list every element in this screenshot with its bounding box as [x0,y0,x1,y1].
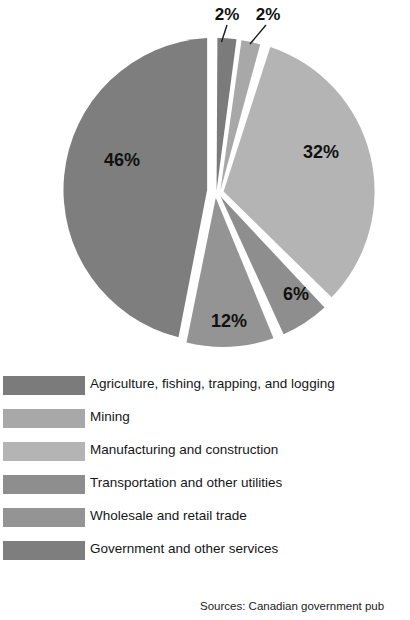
legend-swatch-icon [3,508,85,527]
chart-legend: Agriculture, fishing, trapping, and logg… [0,372,410,570]
pie-value-label-agriculture: 2% [215,5,240,24]
legend-swatch-icon [3,442,85,461]
pie-value-label-government: 46% [104,150,140,170]
legend-item-agriculture-fishing-trapping-and-logging[interactable]: Agriculture, fishing, trapping, and logg… [0,372,410,405]
legend-item-manufacturing-and-construction[interactable]: Manufacturing and construction [0,438,410,471]
legend-swatch-icon [3,475,85,494]
legend-item-mining[interactable]: Mining [0,405,410,438]
legend-swatch-icon [3,409,85,428]
pie-value-label-wholesale: 12% [211,311,247,331]
legend-item-label: Transportation and other utilities [90,472,282,494]
legend-item-transportation-and-other-utilities[interactable]: Transportation and other utilities [0,471,410,504]
pie-chart-svg: 2% 2% 32% 6% 12% 46% [0,0,410,365]
pie-value-label-mining: 2% [256,5,281,24]
legend-item-label: Agriculture, fishing, trapping, and logg… [90,373,335,395]
legend-swatch-icon [3,541,85,560]
legend-item-label: Mining [90,406,130,428]
legend-item-government-and-other-services[interactable]: Government and other services [0,537,410,570]
source-note: Sources: Canadian government pub [200,598,410,614]
legend-item-wholesale-and-retail-trade[interactable]: Wholesale and retail trade [0,504,410,537]
pie-slice-government-and-other-services[interactable] [63,38,207,337]
pie-chart-figure: 2% 2% 32% 6% 12% 46% [0,0,410,365]
legend-item-label: Government and other services [90,538,278,560]
leader-line-mining [250,25,266,44]
pie-value-label-manufacturing: 32% [303,142,339,162]
pie-value-label-transportation: 6% [283,284,309,304]
legend-swatch-icon [3,376,85,395]
legend-item-label: Wholesale and retail trade [90,505,247,527]
legend-item-label: Manufacturing and construction [90,439,278,461]
